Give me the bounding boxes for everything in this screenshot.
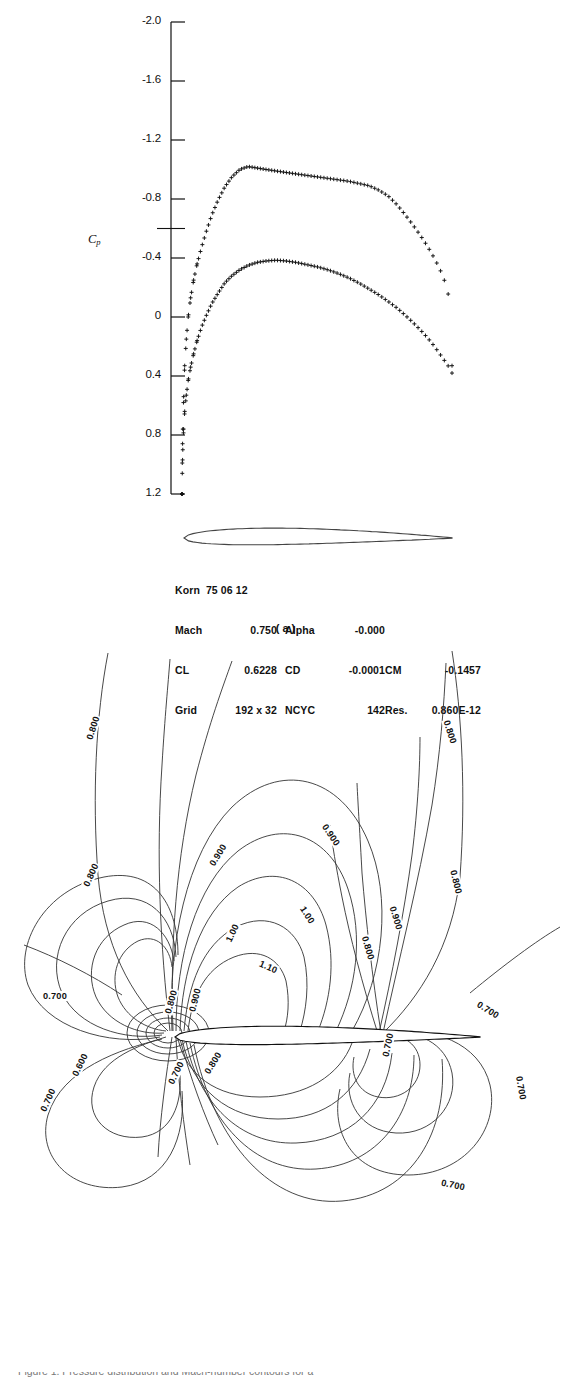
cp-data-point (184, 337, 188, 341)
cp-upper-surface-points (180, 165, 454, 496)
cp-data-point (206, 223, 210, 227)
cp-data-point (192, 278, 196, 282)
contour-line (379, 737, 420, 1033)
cut-off-figure-caption: Figure 1. Pressure distribution and Mach… (0, 1372, 571, 1380)
cp-data-point (349, 180, 353, 184)
contour-line (190, 1043, 414, 1169)
cp-data-point (442, 358, 446, 362)
contour-level-label: 0.700 (42, 991, 68, 1001)
airfoil-profile-contour (175, 1026, 480, 1044)
cp-data-point (380, 190, 384, 194)
cp-data-point (373, 290, 377, 294)
cp-data-point (198, 328, 202, 332)
contour-line (184, 921, 307, 1031)
cp-data-point (423, 241, 427, 245)
cp-data-point (234, 270, 238, 274)
cp-data-point (446, 364, 450, 368)
cp-data-point (188, 301, 192, 305)
cp-data-point (204, 313, 208, 317)
cp-data-point (439, 269, 443, 273)
cp-data-point (294, 260, 298, 264)
cp-data-point (200, 243, 204, 247)
cp-data-point (359, 182, 363, 186)
contour-line-group (24, 651, 560, 1201)
cp-data-point (394, 202, 398, 206)
cp-data-point (189, 365, 193, 369)
cp-data-point (376, 188, 380, 192)
cp-data-point (390, 303, 394, 307)
cp-data-point (352, 180, 356, 184)
contour-line (95, 653, 168, 1031)
cp-data-point (362, 183, 366, 187)
cp-data-point (442, 278, 446, 282)
cp-data-point (209, 304, 213, 308)
cp-data-point (185, 387, 189, 391)
cp-data-point (227, 277, 231, 281)
contour-line (158, 1037, 172, 1157)
cp-data-point (222, 282, 226, 286)
cp-data-point (297, 261, 301, 265)
cp-data-point (412, 225, 416, 229)
cp-data-point (220, 285, 224, 289)
cp-data-point (319, 266, 323, 270)
cp-data-point (183, 364, 187, 368)
cp-data-point (409, 318, 413, 322)
cp-data-point (398, 308, 402, 312)
cp-data-point (423, 334, 427, 338)
cp-data-point (232, 173, 236, 177)
cp-data-point (197, 257, 201, 261)
contour-line (171, 780, 381, 1031)
contour-line (24, 945, 122, 995)
cp-data-point (309, 264, 313, 268)
contour-line (176, 834, 357, 1031)
cp-data-point (211, 211, 215, 215)
cp-data-point (300, 262, 304, 266)
cp-data-point (431, 254, 435, 258)
info-a-line1: Korn 75 06 12 (175, 584, 481, 597)
cp-data-point (181, 458, 185, 462)
cp-data-point (312, 264, 316, 268)
cp-data-point (387, 300, 391, 304)
cp-data-point (366, 183, 370, 187)
cp-data-point (185, 328, 189, 332)
cp-data-point (182, 427, 186, 431)
cp-data-point (189, 296, 193, 300)
cp-data-point (181, 442, 185, 446)
cp-data-point (376, 293, 380, 297)
cp-data-point (190, 361, 194, 365)
cp-data-point (198, 250, 202, 254)
cp-data-point (186, 315, 190, 319)
cp-data-point (250, 262, 254, 266)
contour-line (330, 825, 378, 1034)
cp-data-point (369, 288, 373, 292)
cp-data-point (387, 195, 391, 199)
cp-data-point (405, 215, 409, 219)
cp-data-point (427, 338, 431, 342)
cp-data-point (213, 296, 217, 300)
cp-data-point (420, 329, 424, 333)
cp-data-point (352, 278, 356, 282)
cp-data-point (390, 198, 394, 202)
cp-data-point (306, 263, 310, 267)
cp-data-point (435, 261, 439, 265)
cp-data-point (197, 334, 201, 338)
cp-data-point (222, 186, 226, 190)
contour-line (383, 663, 446, 1033)
cp-data-point (380, 295, 384, 299)
contour-line (159, 659, 170, 1031)
cp-data-point (220, 191, 224, 195)
cp-data-point (225, 183, 229, 187)
cp-lower-surface-points (180, 258, 454, 496)
cp-data-point (225, 279, 229, 283)
contour-line (383, 651, 463, 1033)
cp-data-point (180, 471, 184, 475)
cp-data-point (450, 371, 454, 375)
contour-line (115, 939, 172, 1031)
cp-data-point (383, 297, 387, 301)
cp-data-point (234, 171, 238, 175)
cp-data-point (253, 261, 257, 265)
cp-data-point (195, 262, 199, 266)
figure-root: Cp -2.0-1.6-1.2-0.8-0.400.40.81.2 Korn 7… (0, 0, 571, 1380)
cp-data-point (215, 293, 219, 297)
cp-data-point (373, 186, 377, 190)
